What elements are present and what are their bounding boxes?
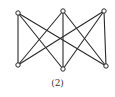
figure-caption: (2)	[0, 78, 115, 88]
vertex-tr	[102, 9, 106, 13]
edge-tr-br	[104, 11, 106, 66]
vertex-bl	[16, 63, 20, 67]
vertex-br	[104, 64, 108, 68]
graph-edges	[18, 11, 106, 69]
vertex-tl	[16, 11, 20, 15]
vertex-tm	[61, 9, 65, 13]
vertex-bm	[61, 67, 65, 71]
edge-tm-bl	[18, 11, 63, 65]
edge-tl-br	[18, 13, 106, 66]
